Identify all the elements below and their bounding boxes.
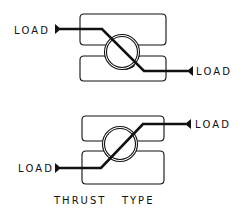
load-arrow-right-icon (187, 66, 193, 76)
load-label-left: LOAD (14, 25, 50, 36)
lower-bearing-diagram: LOAD LOAD (18, 116, 231, 184)
load-arrow-right-icon (185, 119, 191, 129)
upper-bearing-diagram: LOAD LOAD (14, 14, 232, 81)
load-arrow-left-icon (55, 24, 61, 34)
load-label-left: LOAD (18, 163, 54, 174)
load-arrow-left-icon (55, 163, 61, 173)
ball-inner-ring (107, 37, 138, 68)
ball-inner-ring (105, 129, 136, 160)
load-label-right: LOAD (195, 119, 231, 130)
figure-caption: THRUST TYPE (53, 195, 154, 206)
thrust-type-diagram: LOAD LOAD LOAD LOAD THRUST TYPE (0, 0, 248, 217)
load-label-right: LOAD (196, 66, 232, 77)
